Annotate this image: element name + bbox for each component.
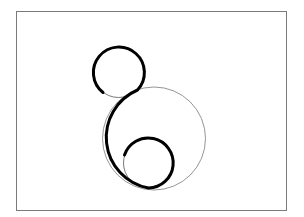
thick-s-curve	[93, 47, 173, 188]
frame-border	[17, 12, 287, 211]
geometric-diagram	[0, 0, 304, 217]
